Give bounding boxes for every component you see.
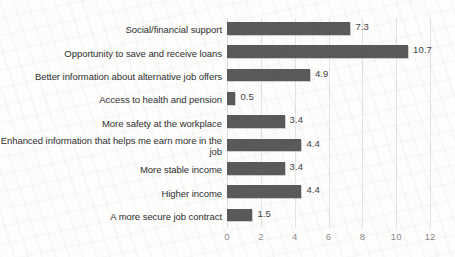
bar — [227, 69, 310, 82]
x-tick-label: 0 — [224, 231, 229, 242]
bar-value-label: 4.4 — [306, 184, 320, 195]
category-label: A more secure job contract — [0, 211, 227, 222]
bar-row: 1.5 — [227, 205, 430, 227]
bar — [227, 185, 301, 198]
bar-value-label: 1.5 — [257, 208, 271, 219]
x-tick-label: 12 — [425, 231, 436, 242]
bar — [227, 92, 235, 105]
bar — [227, 45, 408, 58]
plot-area: 7.310.74.90.53.44.43.44.41.5 — [227, 18, 430, 228]
x-tick-label: 2 — [258, 231, 263, 242]
bar-chart-figure: 7.310.74.90.53.44.43.44.41.5 Social/fina… — [0, 0, 455, 257]
x-tick-label: 4 — [292, 231, 297, 242]
category-label: Better information about alternative job… — [0, 71, 227, 82]
category-axis-labels: Social/financial supportOpportunity to s… — [0, 18, 227, 228]
bar-row: 3.4 — [227, 158, 430, 180]
bar-row: 7.3 — [227, 18, 430, 40]
x-tick-label: 10 — [391, 231, 402, 242]
bar-value-label: 0.5 — [240, 91, 254, 102]
x-tick-label: 6 — [326, 231, 331, 242]
bar-value-label: 7.3 — [355, 21, 369, 32]
bar — [227, 115, 285, 128]
category-label: Opportunity to save and receive loans — [0, 48, 227, 59]
x-axis-tick-labels: 024681012 — [227, 231, 430, 247]
bar — [227, 139, 301, 152]
category-label: Higher income — [0, 188, 227, 199]
bar-row: 4.4 — [227, 181, 430, 203]
category-label: Social/financial support — [0, 24, 227, 35]
x-tick-label: 8 — [360, 231, 365, 242]
bar — [227, 209, 252, 222]
bar — [227, 162, 285, 175]
bar — [227, 22, 350, 35]
category-label: More safety at the workplace — [0, 118, 227, 129]
category-label: Access to health and pension — [0, 94, 227, 105]
bar-value-label: 3.4 — [290, 161, 304, 172]
bar-row: 0.5 — [227, 88, 430, 110]
bar-value-label: 4.4 — [306, 138, 320, 149]
bar-row: 10.7 — [227, 41, 430, 63]
category-label: More stable income — [0, 164, 227, 175]
bar-value-label: 3.4 — [290, 114, 304, 125]
bar-value-label: 10.7 — [413, 44, 432, 55]
bar-value-label: 4.9 — [315, 68, 329, 79]
bar-row: 4.4 — [227, 135, 430, 157]
bar-row: 4.9 — [227, 65, 430, 87]
category-label: Enhanced information that helps me earn … — [0, 135, 227, 158]
bar-row: 3.4 — [227, 111, 430, 133]
